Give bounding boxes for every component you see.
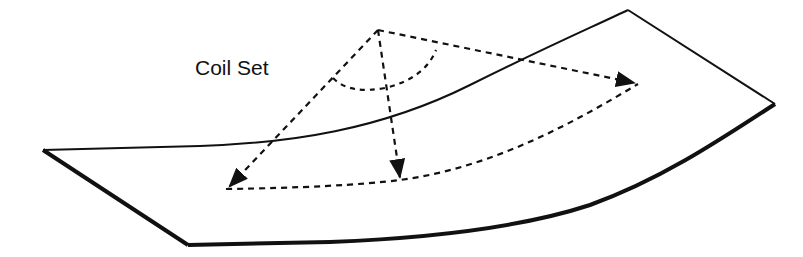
right-back-arrow <box>378 30 635 83</box>
sheet-bottom-edge <box>188 104 775 245</box>
center-arrow <box>378 30 400 178</box>
sheet-right-edge <box>628 10 775 104</box>
sheet-outline <box>43 10 775 245</box>
angle-arc <box>333 50 436 90</box>
left-front-arrow <box>229 30 378 187</box>
sheet-left-edge <box>43 150 188 245</box>
curvature-dashed-line <box>226 84 638 189</box>
arrows <box>229 30 635 187</box>
coil-set-diagram <box>0 0 803 257</box>
